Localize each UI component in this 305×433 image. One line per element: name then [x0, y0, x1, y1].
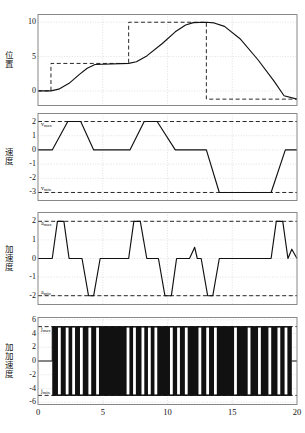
annotation-subscript: max — [44, 222, 52, 227]
y-axis-label-position: 位置 — [3, 51, 12, 69]
y-tick-label: 2 — [32, 216, 36, 225]
y-tick-label: 0 — [32, 86, 36, 95]
y-tick-label: -2 — [29, 291, 36, 300]
y-tick-label: -4 — [29, 384, 36, 393]
a-max-label: amax — [41, 220, 51, 226]
annotation-subscript: max — [44, 123, 52, 128]
figure-multi-axis-motion-profile: 1050位置210-1-2-3速度vmaxvmin210-1-2加速度amaxa… — [0, 0, 305, 433]
j-max-label: jmax — [41, 326, 50, 332]
y-axis-label-jerk: 加加速度 — [3, 343, 12, 379]
y-tick-label: -1 — [29, 159, 36, 168]
y-axis-label-velocity: 速度 — [3, 148, 12, 166]
y-tick-label: 1 — [32, 131, 36, 140]
y-tick-label: 6 — [32, 315, 36, 324]
subplot-velocity: 210-1-2-3速度vmaxvmin — [0, 113, 305, 201]
y-tick-label: 10 — [28, 17, 36, 26]
subplot-position: 1050位置 — [0, 14, 305, 106]
j-min-label: jmin — [41, 388, 50, 394]
annotation-subscript: min — [44, 291, 51, 296]
x-tick-label: 10 — [158, 407, 178, 417]
y-tick-label: -2 — [29, 370, 36, 379]
y-tick-label: -1 — [29, 272, 36, 281]
x-tick-label: 20 — [287, 407, 305, 417]
subplot-jerk: 6420-2-4-6加加速度jmaxjmin — [0, 317, 305, 405]
x-tick-label: 5 — [93, 407, 113, 417]
v-max-label: vmax — [41, 121, 52, 127]
y-tick-label: 5 — [32, 52, 36, 61]
y-axis-label-acceleration: 加速度 — [3, 245, 12, 272]
annotation-subscript: max — [43, 328, 51, 333]
x-tick-label: 0 — [28, 407, 48, 417]
x-tick-label: 15 — [222, 407, 242, 417]
y-tick-label: -3 — [29, 187, 36, 196]
v-min-label: vmin — [41, 185, 51, 191]
y-tick-label: 1 — [32, 235, 36, 244]
y-tick-label: 2 — [32, 117, 36, 126]
y-tick-label: 0 — [32, 145, 36, 154]
annotation-subscript: min — [44, 187, 51, 192]
y-tick-label: -2 — [29, 173, 36, 182]
y-tick-label: -6 — [29, 397, 36, 406]
subplot-acceleration: 210-1-2加速度amaxamin — [0, 212, 305, 305]
y-tick-label: 0 — [32, 356, 36, 365]
y-tick-label: 2 — [32, 342, 36, 351]
y-tick-label: 4 — [32, 329, 36, 338]
jerk-band — [38, 327, 297, 396]
a-min-label: amin — [41, 289, 51, 295]
annotation-subscript: min — [43, 390, 50, 395]
y-tick-label: 0 — [32, 254, 36, 263]
